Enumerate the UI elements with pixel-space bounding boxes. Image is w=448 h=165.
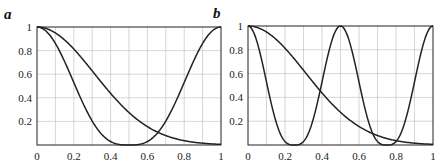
panel-a: 00.20.40.60.810.20.40.60.81a xyxy=(4,6,224,162)
panel-label: b xyxy=(213,5,221,21)
x-tick-label: 0.4 xyxy=(104,150,118,162)
y-tick-label: 0.2 xyxy=(18,115,32,127)
figure: 00.20.40.60.810.20.40.60.81a00.20.40.60.… xyxy=(0,0,448,165)
y-tick-label: 0.2 xyxy=(229,115,243,127)
x-tick-label: 0.2 xyxy=(67,150,81,162)
y-tick-label: 0.8 xyxy=(229,44,243,56)
y-tick-label: 0.6 xyxy=(229,68,243,80)
x-tick-label: 0.6 xyxy=(141,150,155,162)
x-tick-label: 0 xyxy=(34,150,40,162)
y-tick-label: 1 xyxy=(27,21,33,33)
x-tick-label: 0.2 xyxy=(278,150,292,162)
y-tick-label: 1 xyxy=(238,20,244,32)
x-tick-label: 0.6 xyxy=(352,150,366,162)
x-tick-label: 1 xyxy=(430,150,436,162)
panel-label: a xyxy=(4,6,12,22)
y-tick-label: 0.4 xyxy=(229,91,243,103)
panel-b: 00.20.40.60.810.20.40.60.81b xyxy=(213,5,436,162)
x-tick-label: 0.8 xyxy=(177,150,191,162)
x-tick-label: 1 xyxy=(218,150,224,162)
y-tick-label: 0.8 xyxy=(18,45,32,57)
x-tick-label: 0.4 xyxy=(315,150,329,162)
y-tick-label: 0.6 xyxy=(18,68,32,80)
x-tick-label: 0.8 xyxy=(389,150,403,162)
y-tick-label: 0.4 xyxy=(18,92,32,104)
x-tick-label: 0 xyxy=(245,150,251,162)
